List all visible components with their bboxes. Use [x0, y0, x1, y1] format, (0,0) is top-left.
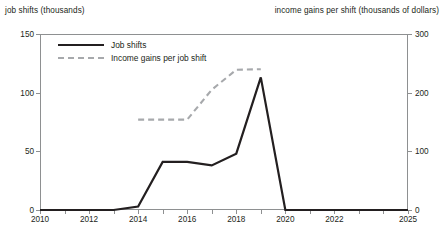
right-axis-tick-labels: 0100200300 — [415, 34, 443, 210]
right-axis-tick-label: 0 — [415, 206, 420, 215]
x-axis-tick-label: 2010 — [31, 215, 49, 224]
right-axis-tick-label: 200 — [415, 88, 429, 97]
x-axis-tick-label: 2018 — [227, 215, 245, 224]
left-axis-tick-label: 100 — [20, 88, 34, 97]
x-axis-tick-label: 2014 — [129, 215, 147, 224]
right-axis-tick — [408, 34, 412, 35]
right-axis-tick — [408, 151, 412, 152]
legend-item-income-gains: Income gains per job shift — [58, 51, 206, 64]
chart-container: job shifts (thousands) income gains per … — [0, 0, 445, 243]
legend-solid-line-icon — [58, 40, 104, 50]
legend-item-job-shifts: Job shifts — [58, 38, 206, 51]
legend: Job shifts Income gains per job shift — [58, 38, 206, 64]
x-axis-tick-label: 2016 — [178, 215, 196, 224]
right-axis-tick-label: 100 — [415, 147, 429, 156]
left-axis-tick-label: 50 — [25, 147, 34, 156]
right-axis-tick — [408, 93, 412, 94]
legend-label: Income gains per job shift — [111, 53, 206, 63]
legend-label: Job shifts — [111, 40, 146, 50]
x-axis-tick-label: 2025 — [399, 215, 417, 224]
left-axis-tick-label: 0 — [29, 206, 34, 215]
x-axis-tick-label: 2012 — [80, 215, 98, 224]
left-axis-tick-labels: 050100150 — [8, 34, 34, 210]
legend-dashed-line-icon — [58, 53, 104, 63]
left-axis-tick-label: 150 — [20, 30, 34, 39]
x-axis-tick-label: 2022 — [325, 215, 343, 224]
x-axis-tick-label: 2020 — [276, 215, 294, 224]
x-axis-tick-labels: 20102012201420162018202020222025 — [40, 0, 408, 243]
x-axis-tick — [408, 210, 409, 214]
right-axis-tick-label: 300 — [415, 30, 429, 39]
